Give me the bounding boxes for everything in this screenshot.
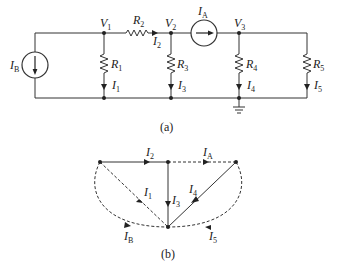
r5-label: R5 (312, 57, 324, 73)
r2-label: R2 (132, 13, 144, 29)
i5-label: I5 (313, 78, 322, 94)
r1-label: R1 (110, 57, 122, 73)
current-source-ib (22, 52, 48, 78)
graph-b: I2 IA I1 I3 I4 IB I5 (b) (95, 145, 242, 261)
r4-label: R4 (245, 57, 257, 73)
ib-label: IB (9, 58, 19, 74)
circuit-figure: V1 V2 V3 IB IA R2 I2 R1 I1 R3 I3 R4 I4 R… (0, 0, 338, 274)
r3-label: R3 (176, 57, 188, 73)
ia-label: IA (197, 4, 208, 20)
i2-label: I2 (152, 34, 161, 50)
edge-ib-label: IB (123, 229, 133, 245)
resistor-r4 (235, 54, 243, 73)
node-v3-label: V3 (234, 16, 245, 32)
edge-i2-label: I2 (145, 145, 154, 161)
edge-i3-label: I3 (171, 193, 180, 209)
caption-b: (b) (161, 247, 175, 261)
node-v1-label: V1 (100, 16, 111, 32)
circuit-a: V1 V2 V3 IB IA R2 I2 R1 I1 R3 I3 R4 I4 R… (9, 4, 324, 134)
resistor-r2 (126, 30, 150, 36)
caption-a: (a) (160, 120, 173, 134)
i3-label: I3 (177, 78, 186, 94)
current-source-ia (191, 20, 217, 46)
edge-i4-label: I4 (188, 182, 197, 198)
edge-i1-label: I1 (143, 185, 152, 201)
ground-symbol (233, 98, 245, 113)
resistor-r5 (303, 54, 311, 73)
resistor-r3 (167, 54, 175, 73)
edge-ia-label: IA (202, 145, 213, 161)
i4-label: I4 (246, 78, 255, 94)
node-v2-label: V2 (165, 16, 176, 32)
i1-label: I1 (111, 78, 120, 94)
edge-i5-label: I5 (208, 229, 217, 245)
resistor-r1 (100, 54, 108, 73)
